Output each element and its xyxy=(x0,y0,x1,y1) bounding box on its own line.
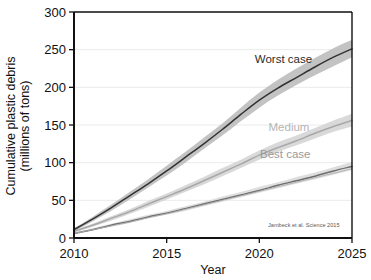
chart-figure: 050100150200250300 2010201520202025 Wors… xyxy=(0,0,371,280)
gridlines-group xyxy=(74,12,352,200)
x-tick-label: 2025 xyxy=(338,246,367,261)
credit-annotation: Jambeck et al. Science 2015 xyxy=(268,222,340,228)
y-axis-title-line2: (millions of tons) xyxy=(18,81,32,172)
x-axis-title: Year xyxy=(200,263,225,277)
y-tick-label: 150 xyxy=(44,118,66,133)
y-axis-title-line1: Cumulative plastic debris xyxy=(4,57,18,196)
series-label-best: Best case xyxy=(260,148,311,160)
series-label-medium: Medium xyxy=(269,121,310,133)
y-tick-label: 200 xyxy=(44,80,66,95)
x-tick-labels-group: 2010201520202025 xyxy=(60,238,367,261)
y-tick-label: 100 xyxy=(44,155,66,170)
chart-canvas: 050100150200250300 2010201520202025 Wors… xyxy=(0,0,371,280)
y-tick-label: 0 xyxy=(59,231,66,246)
y-tick-labels-group: 050100150200250300 xyxy=(44,5,74,246)
x-tick-label: 2015 xyxy=(152,246,181,261)
series-label-worst: Worst case xyxy=(255,53,312,65)
y-tick-label: 50 xyxy=(52,193,66,208)
y-tick-label: 300 xyxy=(44,5,66,20)
y-tick-label: 250 xyxy=(44,42,66,57)
x-tick-label: 2010 xyxy=(60,246,89,261)
x-tick-label: 2020 xyxy=(245,246,274,261)
